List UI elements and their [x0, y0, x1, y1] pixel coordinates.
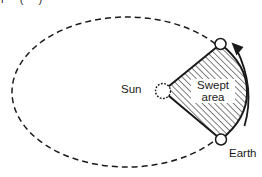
earth-position-bottom-icon — [216, 134, 227, 145]
swept-area-label-line2: area — [192, 91, 234, 103]
cropped-text-fragment: r ( ) — [0, 0, 64, 6]
sun-label: Sun — [121, 83, 141, 95]
sun-icon — [156, 84, 171, 99]
swept-area-label: Swept area — [191, 79, 235, 103]
earth-position-top-icon — [215, 39, 226, 50]
earth-label: Earth — [229, 147, 257, 159]
cropped-text: r ( ) — [1, 0, 64, 5]
kepler-swept-area-diagram: r ( ) Sun Swept area Earth — [0, 0, 262, 177]
arrowhead-icon — [232, 43, 244, 56]
swept-area-label-line1: Swept — [192, 79, 234, 91]
